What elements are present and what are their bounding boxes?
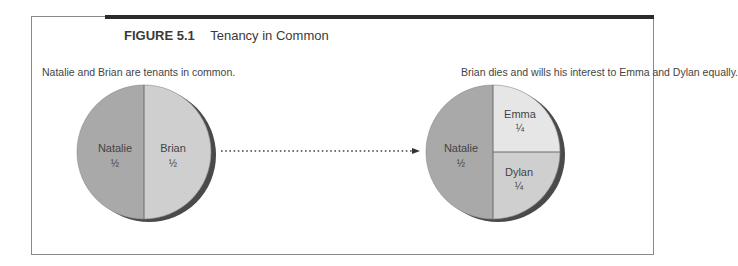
- left-pie: Natalie ½ Brian ½: [77, 85, 216, 222]
- label-natalie-right: Natalie: [444, 142, 478, 154]
- right-pie-slice-dylan: [493, 152, 560, 219]
- arrowhead-icon: [412, 148, 420, 154]
- share-natalie-left: ½: [111, 158, 120, 169]
- share-dylan: ¼: [515, 181, 524, 192]
- label-brian: Brian: [160, 142, 186, 154]
- share-natalie-right: ½: [457, 158, 466, 169]
- label-dylan: Dylan: [505, 166, 533, 178]
- share-emma: ¼: [516, 123, 525, 134]
- label-natalie-left: Natalie: [98, 142, 132, 154]
- transition-arrow: [221, 148, 420, 154]
- label-emma: Emma: [504, 108, 537, 120]
- share-brian: ½: [169, 158, 178, 169]
- right-pie: Natalie ½ Emma ¼ Dylan ¼: [426, 85, 565, 222]
